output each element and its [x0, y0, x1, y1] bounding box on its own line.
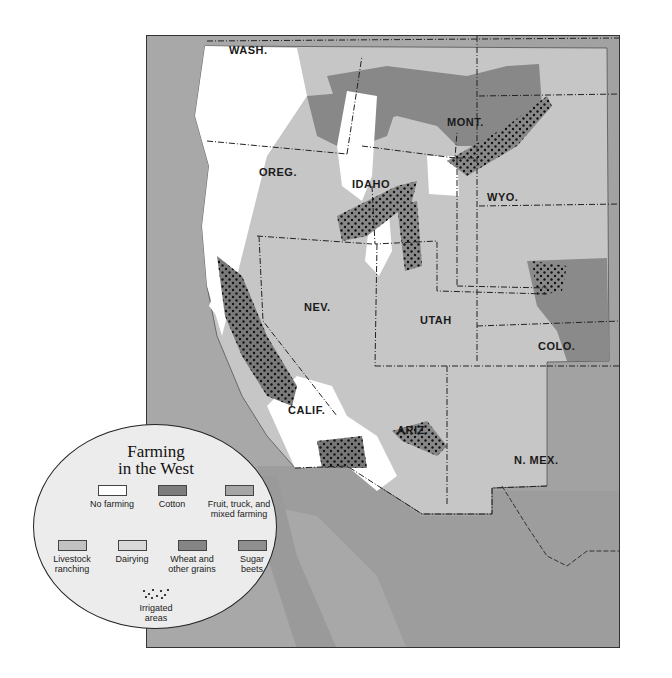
legend-label: Sugar beets — [235, 554, 270, 574]
front-range-irrigated — [532, 261, 567, 296]
swatch-sugar-beets — [238, 540, 267, 551]
legend-item-irrigated: Irrigated areas — [116, 588, 196, 623]
state-label-nev: NEV. — [304, 301, 331, 313]
legend-label: Irrigated areas — [134, 603, 179, 623]
state-label-wyo: WYO. — [487, 191, 518, 203]
legend-label: Fruit, truck, and mixed farming — [204, 499, 274, 519]
swatch-cotton — [158, 485, 187, 496]
swatch-wheat — [178, 540, 207, 551]
legend-label: Dairying — [115, 554, 148, 564]
legend-label: No farming — [90, 499, 134, 509]
legend: Farming in the West No farming Cotton Fr… — [33, 424, 277, 629]
state-label-oreg: OREG. — [259, 166, 297, 178]
legend-item-fruit-mixed: Fruit, truck, and mixed farming — [194, 485, 284, 519]
swatch-no-farming — [98, 485, 127, 496]
imperial-valley-irrigated — [317, 436, 367, 468]
irrigated-dots-icon — [141, 588, 171, 600]
state-label-colo: COLO. — [538, 340, 575, 352]
legend-title-line2: in the West — [34, 460, 278, 477]
state-label-utah: UTAH — [420, 314, 452, 326]
state-label-wash: WASH. — [229, 44, 268, 56]
state-label-ariz: ARIZ. — [397, 424, 428, 436]
legend-label: Cotton — [159, 499, 186, 509]
swatch-fruit-mixed — [225, 485, 254, 496]
state-label-mont: MONT. — [447, 116, 484, 128]
swatch-dairying — [118, 540, 147, 551]
state-label-nmex: N. MEX. — [514, 454, 558, 466]
legend-item-sugar-beets: Sugar beets — [212, 540, 292, 574]
state-label-calif: CALIF. — [288, 404, 325, 416]
legend-label: Livestock ranching — [47, 554, 97, 574]
state-label-idaho: IDAHO — [352, 178, 390, 190]
swatch-livestock — [58, 540, 87, 551]
legend-title-line1: Farming — [34, 443, 278, 460]
